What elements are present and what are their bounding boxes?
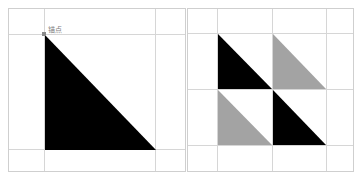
- anchor-point-label: 锚点: [48, 26, 62, 34]
- left-shapes: [9, 9, 187, 173]
- right-shapes: [188, 9, 355, 173]
- top-right-gray-triangle: [273, 34, 326, 89]
- anchor-point-marker[interactable]: [42, 32, 46, 36]
- bottom-right-black-triangle: [273, 90, 326, 145]
- top-left-black-triangle: [218, 34, 272, 89]
- bottom-left-gray-triangle: [218, 90, 272, 145]
- black-right-triangle: [45, 35, 156, 150]
- right-panel: [187, 8, 354, 172]
- left-panel: 锚点: [8, 8, 186, 172]
